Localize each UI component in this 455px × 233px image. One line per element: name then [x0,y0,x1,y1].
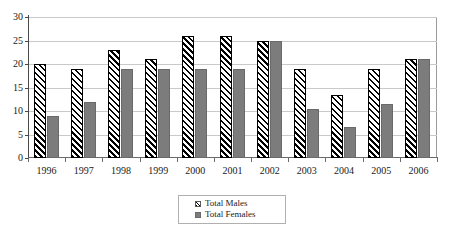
bar-total-females [121,69,133,158]
x-axis-tick-mark [214,158,215,162]
bar-group [145,17,170,158]
x-axis-tick-label: 1999 [138,165,178,176]
bar-total-males [108,50,120,158]
y-axis-tick-mark [25,111,29,112]
x-axis-tick-mark [177,158,178,162]
bar-total-males [331,95,343,158]
bar-total-females [47,116,59,158]
bar-total-males [71,69,83,158]
x-axis-tick-mark [102,158,103,162]
bar-total-females [270,41,282,159]
y-axis-tick-label: 15 [0,83,23,93]
y-axis-tick-label: 20 [0,59,23,69]
bar-total-females [195,69,207,158]
x-axis-tick-label: 1996 [27,165,67,176]
y-axis-tick-mark [25,17,29,18]
x-axis-tick-label: 2000 [175,165,215,176]
bar-total-males [145,59,157,158]
bar-total-females [344,127,356,158]
x-axis-tick-label: 2003 [287,165,327,176]
x-axis-tick-mark [140,158,141,162]
bar-group [405,17,430,158]
x-axis-tick-label: 2002 [250,165,290,176]
bar-total-males [34,64,46,158]
x-axis-tick-mark [65,158,66,162]
bar-total-males [182,36,194,158]
bar-total-females [381,104,393,158]
bar-group [368,17,393,158]
bar-group [71,17,96,158]
bar-total-males [220,36,232,158]
x-axis-tick-label: 1998 [101,165,141,176]
x-axis-tick-label: 2006 [398,165,438,176]
bar-total-males [405,59,417,158]
y-axis-tick-mark [25,88,29,89]
x-axis-tick-label: 1997 [64,165,104,176]
y-axis-tick-label: 10 [0,106,23,116]
bar-total-males [368,69,380,158]
x-axis-tick-mark [400,158,401,162]
bar-total-females [307,109,319,158]
legend-item-total-females: Total Females [183,209,281,220]
bar-group [257,17,282,158]
bar-group [108,17,133,158]
chart-legend: Total Males Total Females [178,195,286,224]
legend-item-total-males: Total Males [183,198,281,209]
legend-label-females: Total Females [205,209,256,220]
x-axis-tick-mark [437,158,438,162]
x-axis-tick-mark [288,158,289,162]
x-axis-tick-label: 2005 [361,165,401,176]
x-axis-tick-mark [325,158,326,162]
x-axis-tick-mark [363,158,364,162]
bar-total-males [257,41,269,159]
bar-group [294,17,319,158]
x-axis-tick-label: 2004 [324,165,364,176]
y-axis-tick-mark [25,64,29,65]
bar-group [331,17,356,158]
y-axis-tick-mark [25,41,29,42]
legend-label-males: Total Males [205,198,248,209]
bar-group [182,17,207,158]
legend-swatch-males-icon [195,201,201,207]
x-axis-tick-mark [251,158,252,162]
y-axis-tick-label: 25 [0,36,23,46]
x-axis-tick-mark [28,158,29,162]
y-axis-tick-mark [25,135,29,136]
bar-group [220,17,245,158]
bar-total-females [418,59,430,158]
x-axis-tick-label: 2001 [213,165,253,176]
legend-swatch-females-icon [195,212,201,218]
bar-chart: 051015202530 199619971998199920002001200… [0,0,455,233]
y-axis-tick-label: 0 [0,153,23,163]
bar-total-males [294,69,306,158]
bar-total-females [84,102,96,158]
bar-group [34,17,59,158]
bar-total-females [158,69,170,158]
y-axis-tick-label: 5 [0,130,23,140]
y-axis-tick-label: 30 [0,12,23,22]
bar-total-females [233,69,245,158]
